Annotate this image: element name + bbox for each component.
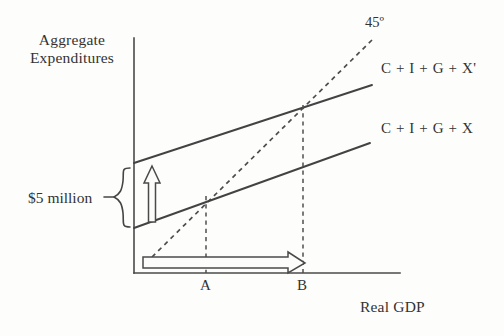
aggregate-expenditures-diagram: Aggregate Expenditures Real GDP 45º C + … (0, 0, 504, 336)
x-axis-title: Real GDP (360, 298, 425, 316)
forty-five-degree-line (152, 40, 372, 257)
y-axis-title-line-2: Expenditures (14, 49, 130, 67)
shift-brace (114, 168, 130, 227)
expenditure-line-original (134, 143, 370, 228)
vertical-shift-arrow (144, 166, 160, 222)
shift-amount-label: $5 million (28, 189, 92, 207)
y-axis-title: Aggregate Expenditures (14, 31, 130, 68)
point-label-b: B (297, 277, 307, 295)
expenditure-line-shifted (134, 85, 372, 163)
curve-label-original: C + I + G + X (381, 120, 473, 138)
y-axis-title-line-1: Aggregate (14, 31, 130, 49)
point-label-a: A (200, 277, 211, 295)
gdp-change-arrow (143, 252, 305, 273)
curve-label-shifted: C + I + G + X' (381, 60, 477, 78)
forty-five-degree-label: 45º (365, 14, 384, 31)
